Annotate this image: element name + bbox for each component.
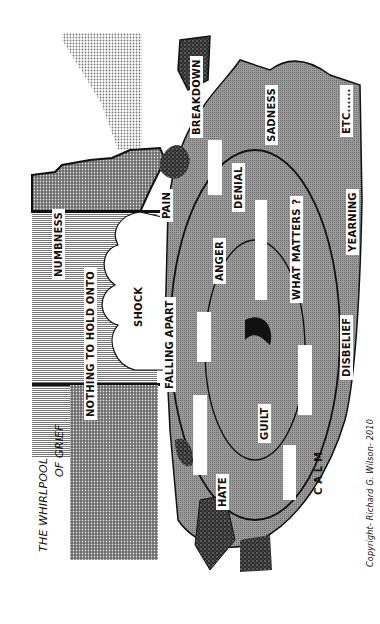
- label-breakdown: BREAKDOWN: [190, 56, 203, 138]
- label-etc: ETC......: [340, 85, 353, 137]
- label-falling-apart: FALLING APART: [163, 297, 176, 392]
- copyright-text: Copyright- Richard G. Wilson- 2010: [365, 416, 376, 570]
- cliff-region: [32, 148, 165, 212]
- label-anger: ANGER: [213, 238, 226, 284]
- title-line-1: THE WHIRLPOOL: [36, 455, 51, 555]
- label-hate: HATE: [216, 474, 229, 510]
- rock-bottom-right: [240, 535, 272, 572]
- label-what-matters: WHAT MATTERS ?: [290, 196, 303, 303]
- label-yearning: YEARNING: [346, 189, 359, 255]
- title-line-2: OF GRIEF: [52, 421, 67, 480]
- label-disbelief: DISBELIEF: [340, 315, 353, 380]
- sky-region: [62, 33, 142, 150]
- label-guilt: GUILT: [258, 404, 271, 443]
- label-nothing-to-hold-onto: NOTHING TO HOLD ONTO: [84, 268, 97, 420]
- label-pain: PAIN: [160, 189, 173, 222]
- label-shock: SHOCK: [132, 284, 145, 330]
- label-sadness: SADNESS: [265, 85, 278, 145]
- label-calm: C A L M: [312, 449, 325, 498]
- label-numbness: NUMBNESS: [52, 209, 65, 280]
- label-denial: DENIAL: [232, 163, 245, 212]
